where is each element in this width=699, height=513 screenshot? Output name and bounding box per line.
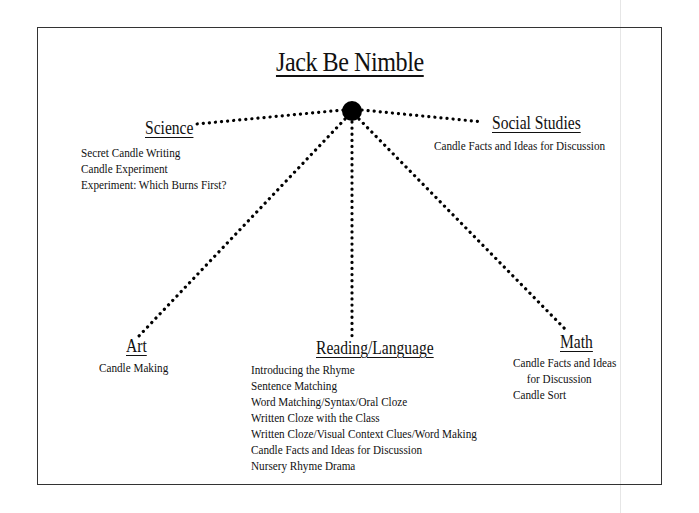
list-item: Candle Facts and Ideas for Discussion bbox=[434, 138, 605, 154]
heading-art-text: Art bbox=[126, 335, 147, 356]
list-item: Candle Making bbox=[99, 360, 168, 376]
title-text: Jack Be Nimble bbox=[276, 46, 424, 77]
list-item: Candle Facts and Ideas for Discussion bbox=[251, 442, 477, 458]
heading-math-text: Math bbox=[560, 331, 593, 352]
list-item: Introducing the Rhyme bbox=[251, 362, 477, 378]
list-item: Sentence Matching bbox=[251, 378, 477, 394]
list-item: Candle Sort bbox=[513, 387, 616, 403]
heading-reading-language-text: Reading/Language bbox=[316, 337, 434, 358]
list-math: Candle Facts and Ideas for Discussion Ca… bbox=[513, 355, 616, 403]
diagram-title: Jack Be Nimble bbox=[49, 46, 650, 78]
heading-science-text: Science bbox=[145, 117, 193, 138]
list-item: Candle Facts and Ideas bbox=[513, 355, 616, 371]
list-item: Candle Experiment bbox=[81, 161, 226, 177]
list-item: Nursery Rhyme Drama bbox=[251, 458, 477, 474]
list-science: Secret Candle Writing Candle Experiment … bbox=[81, 145, 226, 193]
list-item: Written Cloze with the Class bbox=[251, 410, 477, 426]
connector-social-studies bbox=[362, 110, 483, 122]
list-art: Candle Making bbox=[99, 360, 168, 376]
heading-social-studies: Social Studies bbox=[492, 112, 581, 134]
list-reading-language: Introducing the Rhyme Sentence Matching … bbox=[251, 362, 477, 474]
hub-dot bbox=[342, 101, 362, 121]
heading-reading-language: Reading/Language bbox=[316, 337, 434, 359]
connector-science bbox=[197, 110, 343, 124]
heading-social-studies-text: Social Studies bbox=[492, 112, 581, 133]
heading-science: Science bbox=[145, 117, 193, 139]
list-item: for Discussion bbox=[513, 371, 616, 387]
heading-art: Art bbox=[126, 335, 147, 357]
list-item: Written Cloze/Visual Context Clues/Word … bbox=[251, 426, 477, 442]
heading-math: Math bbox=[560, 331, 593, 353]
list-item: Word Matching/Syntax/Oral Cloze bbox=[251, 394, 477, 410]
list-item: Experiment: Which Burns First? bbox=[81, 177, 226, 193]
list-item: Secret Candle Writing bbox=[81, 145, 226, 161]
list-social-studies: Candle Facts and Ideas for Discussion bbox=[434, 138, 605, 154]
